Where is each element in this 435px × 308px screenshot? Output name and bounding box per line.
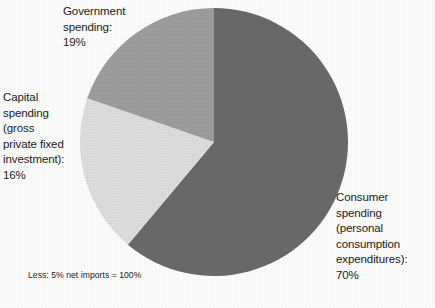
pie-chart-figure: Government spending: 19% Capital spendin…: [0, 0, 435, 308]
pie-label-capital-spending: Capital spending (gross private fixed in…: [3, 90, 93, 183]
pie-label-government-spending: Government spending: 19%: [63, 4, 183, 51]
chart-footnote: Less: 5% net imports = 100%: [28, 270, 141, 281]
pie-label-consumer-spending: Consumer spending (personal consumption …: [336, 190, 435, 283]
